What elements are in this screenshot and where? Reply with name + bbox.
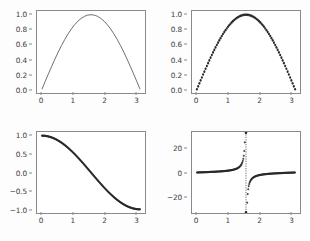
plot-area-bottom-right: [192, 132, 300, 213]
y-tick-label: 0.8: [16, 25, 27, 34]
y-tick-label: 1.0: [171, 9, 182, 18]
subplot-top-right: 0.00.20.40.60.81.0 0123: [155, 0, 310, 121]
x-tick-label: 2: [257, 216, 262, 225]
y-tick-label: 0.4: [16, 55, 27, 64]
x-tick-label: 0: [194, 96, 199, 105]
x-tick-mark: [195, 92, 196, 95]
x-tick-mark: [227, 212, 228, 215]
y-tick-label: 1.0: [16, 9, 27, 18]
x-axis-bottom-left: 0123: [36, 216, 146, 228]
x-tick-mark: [40, 92, 41, 95]
y-tick-label: 0.4: [171, 55, 182, 64]
y-tick-mark: [29, 90, 32, 91]
x-tick-mark: [259, 92, 260, 95]
x-tick-mark: [259, 212, 260, 215]
y-tick-mark: [29, 59, 32, 60]
x-tick-label: 1: [225, 96, 230, 105]
x-axis-top-right: 0123: [191, 96, 301, 108]
plot-area-bottom-left: [37, 132, 145, 213]
x-tick-mark: [72, 212, 73, 215]
y-tick-label: 0.5: [16, 149, 27, 158]
y-tick-mark: [29, 134, 32, 135]
x-tick-label: 0: [39, 216, 44, 225]
y-tick-mark: [184, 29, 187, 30]
y-tick-label: 0.2: [16, 70, 27, 79]
x-tick-mark: [195, 212, 196, 215]
y-tick-mark: [29, 172, 32, 173]
x-tick-mark: [227, 92, 228, 95]
y-tick-mark: [29, 13, 32, 14]
x-tick-mark: [72, 92, 73, 95]
y-tick-label: 0.6: [16, 40, 27, 49]
data-line: [42, 15, 140, 90]
x-tick-label: 3: [289, 216, 294, 225]
y-axis-top-right: 0.00.20.40.60.81.0: [155, 10, 187, 94]
plot-area-top-left: [37, 11, 145, 93]
y-tick-label: 0: [177, 168, 182, 177]
data-markers: [196, 132, 296, 213]
x-tick-label: 1: [70, 96, 75, 105]
axes-bottom-right: [191, 131, 301, 214]
y-tick-mark: [184, 44, 187, 45]
x-tick-label: 2: [102, 216, 107, 225]
y-tick-label: 0.6: [171, 40, 182, 49]
y-tick-label: −0.5: [10, 187, 27, 196]
axes-bottom-left: [36, 131, 146, 214]
y-tick-label: 0.0: [16, 86, 27, 95]
y-tick-mark: [29, 191, 32, 192]
x-tick-mark: [136, 212, 137, 215]
x-tick-label: 0: [39, 96, 44, 105]
subplot-top-left: 0.00.20.40.60.81.0 0123: [0, 0, 155, 121]
x-tick-label: 1: [70, 216, 75, 225]
y-tick-label: −20: [167, 192, 182, 201]
y-tick-label: −1.0: [10, 206, 27, 215]
x-tick-label: 3: [289, 96, 294, 105]
y-tick-mark: [184, 90, 187, 91]
y-tick-label: 1.0: [16, 130, 27, 139]
x-tick-mark: [40, 212, 41, 215]
y-tick-mark: [184, 148, 187, 149]
y-tick-mark: [184, 13, 187, 14]
x-tick-mark: [104, 92, 105, 95]
subplot-bottom-right: −20020 0123: [155, 121, 310, 241]
y-tick-label: 20: [173, 144, 182, 153]
y-tick-mark: [184, 196, 187, 197]
asymptote-endpoint: [245, 132, 248, 134]
x-tick-label: 2: [102, 96, 107, 105]
x-tick-mark: [136, 92, 137, 95]
axes-top-right: [191, 10, 301, 94]
x-tick-mark: [104, 212, 105, 215]
axes-top-left: [36, 10, 146, 94]
x-tick-label: 3: [134, 96, 139, 105]
y-axis-bottom-left: −1.0−0.50.00.51.0: [0, 131, 32, 214]
y-tick-mark: [29, 210, 32, 211]
plot-area-top-right: [192, 11, 300, 93]
x-tick-mark: [291, 92, 292, 95]
y-tick-mark: [29, 153, 32, 154]
subplot-bottom-left: −1.0−0.50.00.51.0 0123: [0, 121, 155, 241]
y-tick-mark: [29, 74, 32, 75]
asymptote-endpoint: [245, 211, 248, 213]
y-axis-bottom-right: −20020: [155, 131, 187, 214]
x-axis-bottom-right: 0123: [191, 216, 301, 228]
x-axis-top-left: 0123: [36, 96, 146, 108]
data-markers: [41, 135, 141, 211]
y-tick-mark: [184, 59, 187, 60]
x-tick-label: 0: [194, 216, 199, 225]
y-tick-label: 0.0: [171, 86, 182, 95]
y-axis-top-left: 0.00.20.40.60.81.0: [0, 10, 32, 94]
matplotlib-figure: 0.00.20.40.60.81.0 0123 0.00.20.40.60.81…: [0, 0, 310, 241]
y-tick-mark: [29, 44, 32, 45]
y-tick-mark: [184, 74, 187, 75]
y-tick-label: 0.8: [171, 25, 182, 34]
x-tick-label: 2: [257, 96, 262, 105]
y-tick-mark: [184, 172, 187, 173]
y-tick-label: 0.0: [16, 168, 27, 177]
y-tick-label: 0.2: [171, 70, 182, 79]
x-tick-label: 3: [134, 216, 139, 225]
x-tick-label: 1: [225, 216, 230, 225]
y-tick-mark: [29, 29, 32, 30]
x-tick-mark: [291, 212, 292, 215]
data-markers: [196, 13, 296, 90]
